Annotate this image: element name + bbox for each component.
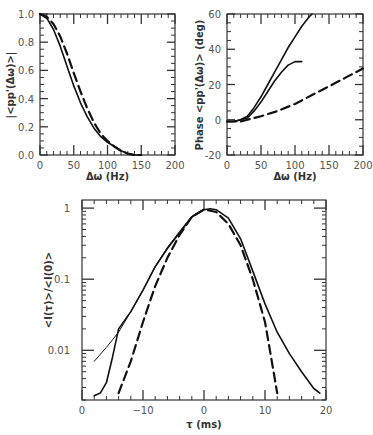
- y-tick-label: 1: [64, 203, 70, 214]
- y-tick-label: 40: [208, 44, 221, 55]
- y-tick-label: 0.2: [18, 122, 34, 133]
- series-gaussian-dashed: [119, 209, 278, 393]
- x-tick-label: 10: [259, 405, 272, 416]
- x-tick-label: 0: [79, 405, 85, 416]
- x-tick-label: 150: [132, 160, 151, 171]
- y-tick-label: 60: [208, 9, 221, 20]
- y-tick-label: 20: [208, 80, 221, 91]
- x-tick-label: 0: [224, 160, 230, 171]
- magnitude-plot: 0501001502000.00.20.40.60.81.0Δω (Hz)|<p…: [5, 9, 185, 182]
- series-solid-upper: [227, 14, 312, 122]
- intensity-correlation-plot: 0−10010200.010.11τ (ms)<I(τ)>/<I(0)>: [43, 200, 332, 430]
- plot-frame: [82, 200, 326, 400]
- figure-canvas: 0501001502000.00.20.40.60.81.0Δω (Hz)|<p…: [0, 0, 373, 435]
- x-tick-label: 100: [98, 160, 117, 171]
- y-tick-label: 0.0: [18, 150, 34, 161]
- x-axis-label: τ (ms): [186, 419, 221, 430]
- y-tick-label: 0.8: [18, 37, 34, 48]
- x-tick-label: 50: [255, 160, 268, 171]
- series-fit-thin: [94, 209, 204, 361]
- series-dashed: [227, 69, 363, 122]
- y-tick-label: 0.6: [18, 65, 34, 76]
- x-tick-label: 20: [320, 405, 333, 416]
- y-tick-label: 1.0: [18, 9, 34, 20]
- x-tick-label: 100: [285, 160, 304, 171]
- plot-frame: [227, 14, 363, 155]
- y-tick-label: 0.1: [54, 274, 70, 285]
- x-tick-label: −10: [132, 405, 153, 416]
- y-axis-label: Phase <pp'(Δω)> (deg): [194, 20, 205, 151]
- y-tick-label: 0.4: [18, 94, 34, 105]
- series-solid: [40, 14, 141, 155]
- x-tick-label: 150: [319, 160, 338, 171]
- y-axis-label: |<pp'(Δω)>|: [5, 51, 17, 118]
- x-axis-label: Δω (Hz): [86, 171, 129, 182]
- x-tick-label: 200: [165, 160, 184, 171]
- y-axis-label: <I(τ)>/<I(0)>: [43, 252, 54, 328]
- x-tick-label: 0: [201, 405, 207, 416]
- y-tick-label: -20: [205, 150, 221, 161]
- y-tick-label: 0: [215, 115, 221, 126]
- x-tick-label: 0: [37, 160, 43, 171]
- x-axis-label: Δω (Hz): [273, 171, 316, 182]
- y-tick-label: 0.01: [48, 345, 70, 356]
- x-tick-label: 50: [67, 160, 80, 171]
- x-tick-label: 200: [353, 160, 372, 171]
- phase-plot: 050100150200-200204060Δω (Hz)Phase <pp'(…: [194, 9, 373, 182]
